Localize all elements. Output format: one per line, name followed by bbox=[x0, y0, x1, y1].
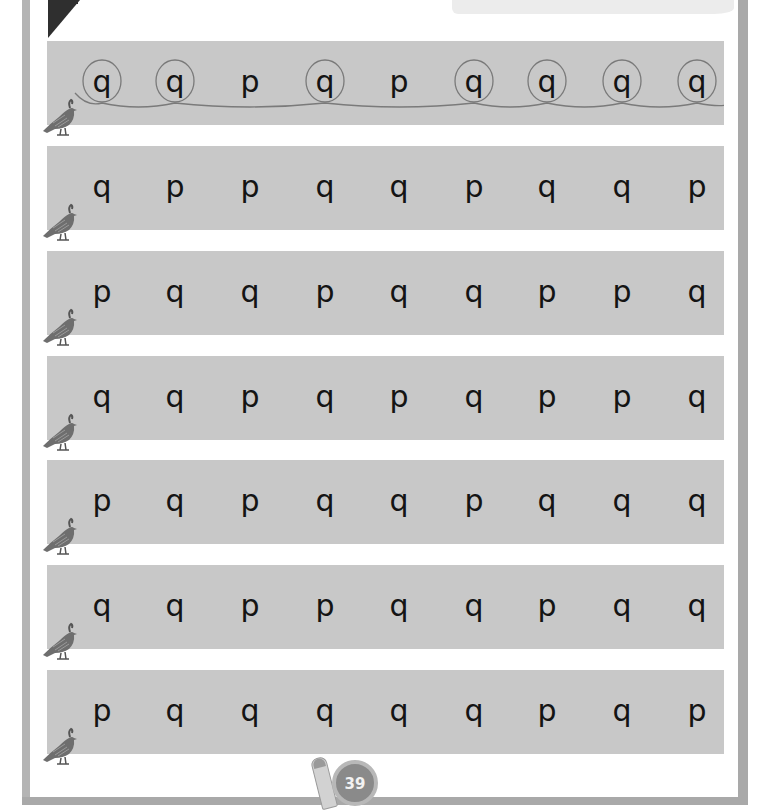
letter-row: qqpqpqqqq bbox=[47, 41, 724, 125]
letter[interactable]: p bbox=[454, 172, 494, 202]
letter[interactable]: q bbox=[379, 591, 419, 621]
letter[interactable]: p bbox=[527, 382, 567, 412]
letter[interactable]: p bbox=[230, 591, 270, 621]
page-frame-bottom bbox=[22, 797, 748, 805]
letter[interactable]: q bbox=[454, 277, 494, 307]
letter[interactable]: p bbox=[677, 696, 717, 726]
letter[interactable]: p bbox=[677, 172, 717, 202]
letter[interactable]: q bbox=[602, 591, 642, 621]
letter[interactable]: q bbox=[454, 696, 494, 726]
letter[interactable]: q bbox=[379, 486, 419, 516]
quail-icon bbox=[41, 408, 83, 452]
letter[interactable]: q bbox=[230, 277, 270, 307]
top-banner bbox=[452, 0, 734, 14]
letter[interactable]: p bbox=[379, 67, 419, 97]
letter[interactable]: q bbox=[155, 486, 195, 516]
letter[interactable]: q bbox=[230, 696, 270, 726]
letter-circled[interactable]: q bbox=[677, 67, 717, 97]
letter[interactable]: q bbox=[527, 486, 567, 516]
letter-row: qppqqpqqp bbox=[47, 146, 724, 230]
letter[interactable]: q bbox=[82, 172, 122, 202]
letter[interactable]: q bbox=[379, 277, 419, 307]
letter-circled[interactable]: q bbox=[454, 67, 494, 97]
letter-row: pqqpqqppq bbox=[47, 251, 724, 335]
letter[interactable]: p bbox=[230, 382, 270, 412]
corner-flag bbox=[48, 0, 80, 38]
letter[interactable]: q bbox=[602, 696, 642, 726]
letter-row: qqpqpqppq bbox=[47, 356, 724, 440]
quail-icon bbox=[41, 512, 83, 556]
letter[interactable]: q bbox=[454, 382, 494, 412]
letter[interactable]: p bbox=[82, 277, 122, 307]
letter-circled[interactable]: q bbox=[155, 67, 195, 97]
letter[interactable]: q bbox=[155, 277, 195, 307]
letter[interactable]: q bbox=[602, 172, 642, 202]
letter[interactable]: p bbox=[602, 382, 642, 412]
letter[interactable]: q bbox=[305, 172, 345, 202]
letter[interactable]: q bbox=[454, 591, 494, 621]
letter[interactable]: q bbox=[82, 591, 122, 621]
letter-circled[interactable]: q bbox=[602, 67, 642, 97]
letter[interactable]: q bbox=[305, 696, 345, 726]
letter[interactable]: p bbox=[230, 67, 270, 97]
quail-icon bbox=[41, 617, 83, 661]
letter[interactable]: p bbox=[379, 382, 419, 412]
letter[interactable]: p bbox=[155, 172, 195, 202]
letter[interactable]: q bbox=[155, 382, 195, 412]
letter[interactable]: q bbox=[305, 382, 345, 412]
letter[interactable]: q bbox=[527, 172, 567, 202]
quail-icon bbox=[41, 303, 83, 347]
letter[interactable]: q bbox=[677, 591, 717, 621]
letter[interactable]: p bbox=[82, 486, 122, 516]
page-number: 39 bbox=[345, 775, 366, 793]
letter-row: pqqqqqpqp bbox=[47, 670, 724, 754]
quail-icon bbox=[41, 93, 83, 137]
letter[interactable]: q bbox=[379, 696, 419, 726]
letter-circled[interactable]: q bbox=[305, 67, 345, 97]
letter[interactable]: p bbox=[305, 591, 345, 621]
letter[interactable]: p bbox=[305, 277, 345, 307]
letter[interactable]: p bbox=[527, 591, 567, 621]
quail-icon bbox=[41, 722, 83, 766]
letter-row: qqppqqpqq bbox=[47, 565, 724, 649]
letter[interactable]: p bbox=[602, 277, 642, 307]
letter[interactable]: q bbox=[677, 486, 717, 516]
letter-circled[interactable]: q bbox=[82, 67, 122, 97]
quail-icon bbox=[41, 198, 83, 242]
letter[interactable]: p bbox=[82, 696, 122, 726]
letter[interactable]: q bbox=[305, 486, 345, 516]
letter[interactable]: p bbox=[230, 172, 270, 202]
page-frame-right bbox=[738, 0, 748, 805]
letter[interactable]: q bbox=[379, 172, 419, 202]
page-number-badge: 39 bbox=[332, 760, 378, 806]
letter[interactable]: q bbox=[602, 486, 642, 516]
letter[interactable]: p bbox=[527, 696, 567, 726]
letter[interactable]: p bbox=[454, 486, 494, 516]
page-frame-left bbox=[22, 0, 30, 805]
letter[interactable]: q bbox=[677, 382, 717, 412]
letter[interactable]: q bbox=[677, 277, 717, 307]
letter[interactable]: p bbox=[527, 277, 567, 307]
letter-row: pqpqqpqqq bbox=[47, 460, 724, 544]
letter[interactable]: q bbox=[155, 591, 195, 621]
letter[interactable]: p bbox=[230, 486, 270, 516]
letter-circled[interactable]: q bbox=[527, 67, 567, 97]
letter[interactable]: q bbox=[155, 696, 195, 726]
letter[interactable]: q bbox=[82, 382, 122, 412]
